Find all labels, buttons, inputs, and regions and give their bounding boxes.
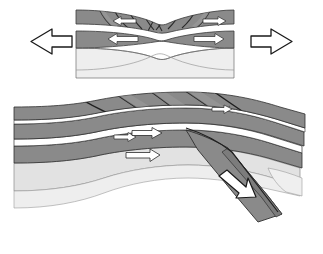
figure-canvas xyxy=(0,0,323,254)
structural-geology-figure: Extensional necking and thrust-fault ram… xyxy=(0,0,323,254)
